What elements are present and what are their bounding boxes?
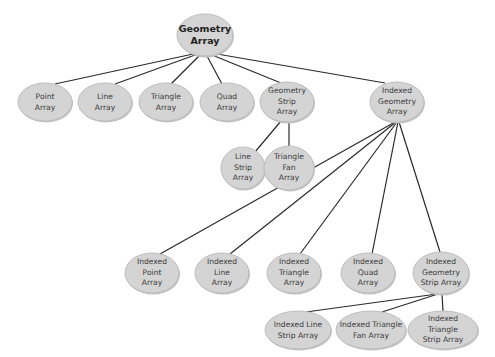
node-geometry-array [177,14,234,58]
edge-geometry-array-to-indexed-geometry-array [217,54,385,83]
ellipse-shape [195,253,249,293]
ellipse-shape [370,82,424,122]
ellipse-shape [267,253,321,293]
node-indexed-point-array [125,253,180,295]
ellipse-shape [341,253,395,293]
ellipse-shape [18,83,72,121]
node-indexed-quad-array [341,253,396,295]
edge-indexed-geometry-array-to-indexed-line-array [230,122,396,254]
ellipse-shape [200,83,254,121]
edge-indexed-geometry-array-to-indexed-triangle-array [300,122,397,254]
node-indexed-triangle-fan-array [336,311,407,351]
ellipse-shape [408,311,478,349]
node-line-strip-array [221,147,266,191]
ellipse-shape [265,311,331,349]
edge-indexed-geometry-array-to-indexed-quad-array [372,122,398,254]
edge-indexed-geometry-strip-array-to-indexed-line-strip-array [306,294,437,312]
edge-indexed-geometry-strip-array-to-indexed-triangle-strip-array [442,294,443,311]
edge-geometry-array-to-triangle-array [171,56,199,84]
nodes-layer [18,14,479,351]
ellipse-shape [336,311,406,349]
node-indexed-geometry-strip-array [413,252,470,296]
node-line-array [78,83,133,123]
ellipse-shape [139,83,193,121]
node-point-array [18,83,73,123]
ellipse-shape [264,146,314,190]
geometry-array-hierarchy-diagram: GeometryArrayPointArrayLineArrayTriangle… [0,0,495,357]
ellipse-shape [260,82,314,122]
node-triangle-array [139,83,194,123]
diagram-graphics [0,0,495,357]
node-indexed-geometry-array [370,82,425,124]
ellipse-shape [125,253,179,293]
ellipse-shape [78,83,132,121]
node-indexed-line-array [195,253,250,295]
edge-geometry-strip-array-to-line-strip-array [255,121,281,152]
ellipse-shape [221,147,265,189]
node-indexed-triangle-strip-array [408,311,479,351]
node-quad-array [200,83,255,123]
ellipse-shape [413,252,469,294]
edge-geometry-array-to-quad-array [207,56,222,84]
edge-geometry-array-to-point-array [55,54,193,84]
node-indexed-triangle-array [267,253,322,295]
node-triangle-fan-array [264,146,315,192]
ellipse-shape [177,14,233,56]
node-geometry-strip-array [260,82,315,124]
edge-geometry-array-to-line-array [115,55,195,84]
edge-indexed-geometry-array-to-indexed-geometry-strip-array [399,122,440,252]
edge-indexed-geometry-strip-array-to-indexed-triangle-fan-array [382,294,438,312]
node-indexed-line-strip-array [265,311,332,351]
